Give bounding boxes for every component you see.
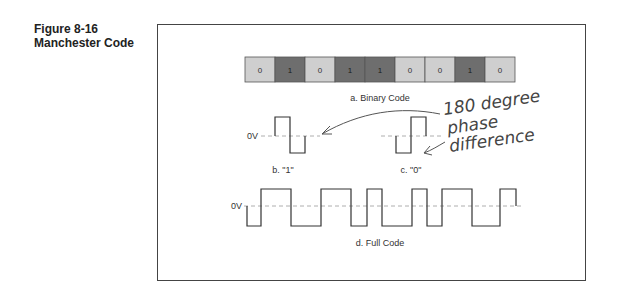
zero-symbol-waveform: c. "0" — [381, 117, 441, 175]
full-code-waveform: 0V d. Full Code — [231, 189, 523, 248]
one-symbol-waveform: 0V b. "1" — [247, 117, 320, 175]
bit-value: 0 — [408, 66, 413, 75]
binary-code-caption: a. Binary Code — [350, 93, 410, 103]
bit-value: 1 — [378, 66, 383, 75]
bit-value: 0 — [498, 66, 503, 75]
bit-value: 0 — [438, 66, 443, 75]
manchester-diagram: 010110010 a. Binary Code 0V b. "1" c. "0… — [0, 0, 617, 298]
bit-value: 0 — [258, 66, 263, 75]
one-symbol-caption: b. "1" — [272, 165, 293, 175]
bit-value: 1 — [288, 66, 293, 75]
zero-volt-label: 0V — [247, 131, 258, 141]
binary-code-bar: 010110010 — [245, 57, 515, 82]
arrow-head-icon — [322, 126, 332, 134]
bit-value: 1 — [468, 66, 473, 75]
zero-symbol-caption: c. "0" — [401, 165, 422, 175]
full-code-caption: d. Full Code — [356, 238, 405, 248]
full-code-zero-volt-label: 0V — [231, 201, 242, 211]
bit-value: 1 — [348, 66, 353, 75]
bit-value: 0 — [318, 66, 323, 75]
